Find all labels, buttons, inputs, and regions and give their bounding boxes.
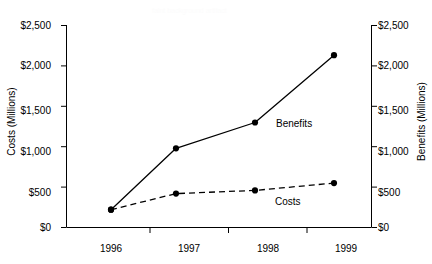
series-markers-costs (108, 180, 337, 213)
chart-figure: faint background artifact Costs (Million… (0, 0, 432, 264)
series-line-costs (111, 183, 334, 210)
left-axis-ticks (61, 26, 67, 228)
right-axis-ticks (372, 26, 378, 228)
plot-area (0, 0, 432, 264)
x-axis-ticks (150, 228, 307, 234)
